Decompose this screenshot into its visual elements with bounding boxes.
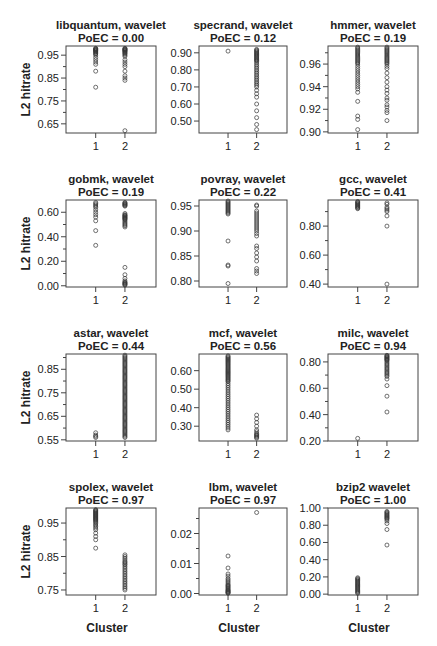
scatter-panel: lbm, waveletPoEC = 0.970.000.010.0212Clu… bbox=[171, 481, 287, 635]
data-point bbox=[385, 377, 389, 381]
data-point bbox=[255, 102, 259, 106]
y-tick-label: 0.01 bbox=[171, 558, 192, 570]
x-tick-label: 1 bbox=[225, 140, 231, 152]
y-tick-label: 0.80 bbox=[300, 356, 321, 368]
data-point bbox=[356, 99, 360, 103]
panel-subtitle: PoEC = 0.97 bbox=[210, 494, 276, 506]
scatter-panel: bzip2 waveletPoEC = 1.000.000.200.400.60… bbox=[300, 481, 418, 635]
y-tick-label: 0.60 bbox=[300, 382, 321, 394]
scatter-panel: gobmk, waveletPoEC = 0.190.000.200.400.6… bbox=[19, 173, 156, 306]
y-tick-label: 0.40 bbox=[300, 409, 321, 421]
y-tick-label: 0.00 bbox=[38, 280, 59, 292]
y-axis-label: L2 hitrate bbox=[19, 62, 33, 116]
panel-title: spolex, wavelet bbox=[69, 481, 154, 493]
x-tick-label: 2 bbox=[254, 294, 260, 306]
x-tick-label: 1 bbox=[225, 602, 231, 614]
panel-title: gcc, wavelet bbox=[339, 173, 407, 185]
x-axis-label: Cluster bbox=[218, 621, 260, 635]
panel-subtitle: PoEC = 0.56 bbox=[210, 340, 276, 352]
panel-subtitle: PoEC = 0.44 bbox=[78, 340, 145, 352]
y-tick-label: 0.75 bbox=[38, 95, 59, 107]
y-tick-label: 0.80 bbox=[171, 275, 192, 287]
y-tick-label: 0.40 bbox=[38, 231, 59, 243]
y-tick-label: 0.60 bbox=[171, 365, 192, 377]
scatter-figure-grid: libquantum, waveletPoEC = 0.000.650.750.… bbox=[0, 0, 437, 646]
panel-title: povray, wavelet bbox=[201, 173, 286, 185]
y-axis-label: L2 hitrate bbox=[19, 216, 33, 270]
figure-canvas: libquantum, waveletPoEC = 0.000.650.750.… bbox=[0, 0, 437, 646]
series-points bbox=[356, 45, 360, 131]
x-tick-label: 2 bbox=[254, 140, 260, 152]
panel-title: milc, wavelet bbox=[338, 327, 409, 339]
panel-title: bzip2 wavelet bbox=[336, 481, 410, 493]
x-tick-label: 2 bbox=[254, 602, 260, 614]
series-points bbox=[356, 576, 360, 596]
series-points bbox=[385, 353, 389, 414]
series-points bbox=[356, 199, 360, 210]
series-points bbox=[94, 508, 98, 550]
data-point bbox=[356, 128, 360, 132]
y-tick-label: 0.40 bbox=[300, 278, 321, 290]
x-tick-label: 1 bbox=[355, 602, 361, 614]
data-point bbox=[94, 243, 98, 247]
data-point bbox=[385, 394, 389, 398]
y-tick-label: 0.20 bbox=[300, 435, 321, 447]
series-points bbox=[356, 436, 360, 440]
data-point bbox=[255, 251, 259, 255]
data-point bbox=[255, 259, 259, 263]
y-tick-label: 0.80 bbox=[171, 64, 192, 76]
data-point bbox=[385, 224, 389, 228]
series-points bbox=[255, 413, 259, 440]
scatter-panel: gcc, waveletPoEC = 0.410.400.600.8012 bbox=[300, 173, 418, 306]
series-points bbox=[385, 201, 389, 286]
series-points bbox=[123, 553, 127, 592]
data-point bbox=[226, 49, 230, 53]
data-point bbox=[123, 69, 127, 73]
y-tick-label: 0.60 bbox=[171, 98, 192, 110]
y-tick-label: 0.00 bbox=[300, 588, 321, 600]
y-tick-label: 0.75 bbox=[38, 387, 59, 399]
panel-title: mcf, wavelet bbox=[209, 327, 278, 339]
x-tick-label: 2 bbox=[122, 602, 128, 614]
plot-frame bbox=[66, 354, 156, 441]
panel-subtitle: PoEC = 0.41 bbox=[340, 186, 407, 198]
panel-title: libquantum, wavelet bbox=[56, 19, 166, 31]
panel-subtitle: PoEC = 0.19 bbox=[340, 32, 406, 44]
plot-frame bbox=[199, 46, 287, 133]
y-tick-label: 0.70 bbox=[171, 81, 192, 93]
plot-frame bbox=[328, 46, 418, 133]
data-point bbox=[385, 80, 389, 84]
plot-frame bbox=[66, 200, 156, 287]
x-tick-label: 2 bbox=[384, 448, 390, 460]
series-points bbox=[123, 46, 127, 132]
panel-subtitle: PoEC = 1.00 bbox=[340, 494, 406, 506]
y-axis-label: L2 hitrate bbox=[19, 524, 33, 578]
y-tick-label: 0.40 bbox=[300, 554, 321, 566]
data-point bbox=[123, 129, 127, 133]
data-point bbox=[255, 128, 259, 132]
data-point bbox=[385, 543, 389, 547]
data-point bbox=[123, 265, 127, 269]
panel-title: specrand, wavelet bbox=[193, 19, 292, 31]
series-points bbox=[226, 199, 230, 286]
panel-subtitle: PoEC = 0.97 bbox=[78, 494, 144, 506]
panel-title: astar, wavelet bbox=[74, 327, 149, 339]
y-tick-label: 0.75 bbox=[38, 584, 59, 596]
scatter-panel: astar, waveletPoEC = 0.440.550.650.750.8… bbox=[19, 327, 156, 460]
series-points bbox=[226, 354, 230, 432]
data-point bbox=[226, 554, 230, 558]
y-tick-label: 0.85 bbox=[38, 72, 59, 84]
data-point bbox=[226, 239, 230, 243]
y-tick-label: 0.95 bbox=[171, 200, 192, 212]
plot-frame bbox=[199, 508, 287, 595]
series-points bbox=[255, 47, 259, 131]
y-tick-label: 0.95 bbox=[38, 517, 59, 529]
series-points bbox=[255, 511, 259, 515]
data-point bbox=[385, 214, 389, 218]
data-point bbox=[385, 528, 389, 532]
scatter-panel: specrand, waveletPoEC = 0.120.500.600.70… bbox=[171, 19, 293, 152]
series-points bbox=[226, 554, 230, 595]
data-point bbox=[385, 410, 389, 414]
series-points bbox=[226, 49, 230, 53]
scatter-panel: spolex, waveletPoEC = 0.970.750.850.9512… bbox=[19, 481, 156, 635]
